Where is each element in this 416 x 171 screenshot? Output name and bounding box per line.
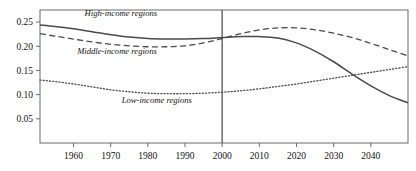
y-tick-label: 0.25 [16,17,33,27]
series-label: High-income regions [84,8,158,18]
x-tick-label: 2000 [213,151,232,161]
y-tick-label: 0.15 [16,66,33,76]
y-axis-ticks: 0.050.100.150.200.25 [16,17,40,124]
plot-frame [40,10,408,143]
chart-container: 0.050.100.150.200.25 1960197019801990200… [0,0,416,171]
data-series [40,25,408,103]
line-chart: 0.050.100.150.200.25 1960197019801990200… [0,0,416,171]
series-label: Low-income regions [121,95,193,105]
x-tick-label: 2030 [324,151,343,161]
x-tick-label: 2040 [361,151,380,161]
y-tick-label: 0.10 [16,90,33,100]
series-label: Middle-income regions [76,46,157,56]
x-tick-label: 2010 [250,151,269,161]
x-tick-label: 1980 [138,151,157,161]
plot-border [40,10,408,143]
series-line [40,25,408,103]
y-tick-label: 0.20 [16,42,33,52]
y-tick-label: 0.05 [16,114,33,124]
x-tick-label: 1960 [64,151,83,161]
series-line [40,67,408,94]
x-axis-ticks: 196019701980199020002010202020302040 [64,143,381,161]
series-annotations: High-income regionsMiddle-income regions… [76,8,192,105]
x-tick-label: 1990 [175,151,194,161]
x-tick-label: 2020 [287,151,306,161]
x-tick-label: 1970 [101,151,120,161]
